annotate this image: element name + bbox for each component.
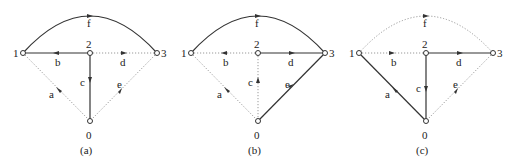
node-3	[155, 51, 160, 56]
arrow-icon	[221, 51, 227, 55]
node-label: 1	[181, 47, 187, 59]
node-2	[424, 51, 429, 56]
graph-figure: 1 2 3 0 f b d c a e (a) 1 2 3 0 f b d	[0, 0, 520, 168]
node-1	[357, 51, 362, 56]
edge-label: a	[385, 88, 390, 100]
node-label: 2	[86, 38, 92, 50]
arrow-icon	[53, 51, 59, 55]
edge-label: e	[453, 78, 458, 90]
node-label: 0	[422, 129, 428, 141]
node-1	[21, 51, 26, 56]
edge-label: c	[80, 76, 85, 88]
edge-label: d	[456, 56, 462, 68]
node-0	[256, 119, 261, 124]
node-label: 1	[13, 47, 19, 59]
edge-label: b	[55, 56, 61, 68]
panel-a: 1 2 3 0 f b d c a e (a)	[13, 14, 167, 157]
arrow-icon	[256, 77, 260, 83]
panel-caption: (c)	[416, 144, 429, 157]
edge-label: b	[223, 56, 229, 68]
arrow-icon	[457, 51, 463, 55]
node-label: 2	[422, 38, 428, 50]
edge-label: e	[117, 78, 122, 90]
edge-label: f	[87, 17, 91, 29]
node-3	[491, 51, 496, 56]
panel-caption: (b)	[248, 144, 261, 157]
edge-label: f	[255, 17, 259, 29]
node-2	[88, 51, 93, 56]
panel-b: 1 2 3 0 f b d c a e (b)	[181, 14, 335, 157]
edge-label: e	[285, 78, 290, 90]
node-label: 2	[254, 38, 260, 50]
panel-c: 1 2 3 0 f b d c a e (c)	[349, 14, 503, 157]
node-label: 3	[329, 47, 335, 59]
edge-label: f	[423, 17, 427, 29]
edge-label: a	[217, 88, 222, 100]
edge-label: b	[391, 56, 397, 68]
arrow-icon	[289, 51, 295, 55]
edge-label: c	[416, 82, 421, 94]
panel-caption: (a)	[80, 144, 93, 157]
edge-label: d	[288, 56, 294, 68]
node-label: 1	[349, 47, 355, 59]
edge-label: c	[248, 76, 253, 88]
edge-label: a	[49, 88, 54, 100]
node-label: 0	[254, 129, 260, 141]
node-label: 3	[161, 47, 167, 59]
node-label: 0	[86, 129, 92, 141]
node-1	[189, 51, 194, 56]
arrow-icon	[121, 51, 127, 55]
edge-label: d	[120, 56, 126, 68]
arrow-icon	[424, 86, 428, 92]
node-label: 3	[497, 47, 503, 59]
node-0	[88, 119, 93, 124]
node-3	[323, 51, 328, 56]
node-0	[424, 119, 429, 124]
arrow-icon	[389, 51, 395, 55]
arrow-icon	[88, 77, 92, 83]
node-2	[256, 51, 261, 56]
